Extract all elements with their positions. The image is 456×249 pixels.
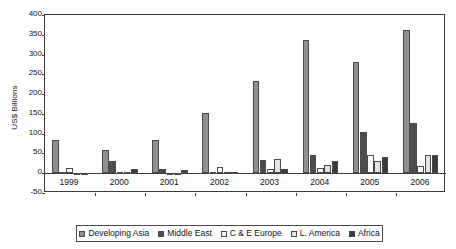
- bar-chart: US$ Billions 400350300250200150100500-50…: [0, 0, 456, 249]
- y-axis-tick-mark: [42, 74, 45, 75]
- y-axis-tick-mark: [42, 153, 45, 154]
- bar: [102, 150, 109, 173]
- bar: [159, 169, 166, 173]
- bar: [174, 173, 181, 175]
- bar: [210, 172, 217, 174]
- legend-label: C & E Europe: [230, 229, 282, 238]
- bar: [74, 173, 81, 175]
- bar: [367, 155, 374, 174]
- y-axis-tick-label: 150: [29, 109, 42, 117]
- legend-item[interactable]: Developing Asia: [79, 229, 149, 238]
- bar: [310, 155, 317, 173]
- bar: [374, 161, 381, 173]
- bar: [432, 155, 439, 174]
- legend-item[interactable]: L. America: [291, 229, 340, 238]
- y-axis-tick-label: -50: [30, 188, 42, 196]
- x-axis-tick-label: 2003: [245, 178, 295, 187]
- y-axis-tick-mark: [42, 94, 45, 95]
- x-axis-tick-mark: [346, 193, 347, 196]
- bar: [281, 169, 288, 173]
- y-axis-tick-mark: [42, 193, 45, 194]
- bar: [303, 40, 310, 174]
- bar: [202, 113, 209, 174]
- bar: [52, 140, 59, 173]
- bar: [181, 170, 188, 173]
- y-axis-tick-label: 0: [38, 168, 42, 176]
- bar: [425, 155, 432, 173]
- x-axis-tick-mark: [296, 193, 297, 196]
- legend-label: L. America: [300, 229, 340, 238]
- y-axis-tick-label: 50: [33, 148, 42, 156]
- legend-swatch-icon: [79, 231, 85, 237]
- y-axis-tick-label: 200: [29, 89, 42, 97]
- y-axis-tick-label: 350: [29, 30, 42, 38]
- y-axis-tick-mark: [42, 35, 45, 36]
- x-axis-tick-mark: [145, 193, 146, 196]
- y-axis-tick-mark: [42, 173, 45, 174]
- x-axis-tick-label: 2005: [345, 178, 395, 187]
- bar: [360, 132, 367, 174]
- bar: [274, 159, 281, 173]
- bar: [382, 157, 389, 173]
- legend-item[interactable]: C & E Europe: [221, 229, 282, 238]
- bar: [167, 173, 174, 175]
- bar: [260, 160, 267, 173]
- plot-area: [44, 14, 445, 192]
- y-axis-tick-label: 250: [29, 69, 42, 77]
- bar: [131, 169, 138, 173]
- bar: [124, 172, 131, 174]
- bar: [324, 165, 331, 173]
- y-axis-tick-label: 400: [29, 10, 42, 18]
- legend-item[interactable]: Africa: [349, 229, 380, 238]
- legend-swatch-icon: [158, 231, 164, 237]
- bar: [59, 172, 66, 174]
- y-axis-tick-mark: [42, 55, 45, 56]
- bar: [353, 62, 360, 174]
- bar: [224, 172, 231, 174]
- x-axis-tick-label: 2002: [194, 178, 244, 187]
- x-axis-tick-mark: [95, 193, 96, 196]
- x-axis-tick-label: 2000: [94, 178, 144, 187]
- bar: [417, 166, 424, 174]
- bar: [332, 161, 339, 173]
- x-axis-tick-mark: [246, 193, 247, 196]
- x-axis-tick-mark: [396, 193, 397, 196]
- x-axis-tick-label: 2004: [295, 178, 345, 187]
- legend-label: Middle East: [167, 229, 211, 238]
- bar: [410, 123, 417, 174]
- bar: [117, 172, 124, 174]
- legend-swatch-icon: [291, 231, 297, 237]
- zero-baseline: [45, 173, 446, 174]
- y-axis-tick-label: 100: [29, 129, 42, 137]
- legend-item[interactable]: Middle East: [158, 229, 211, 238]
- y-axis-tick-mark: [42, 134, 45, 135]
- y-axis-tick-labels: 400350300250200150100500-50: [16, 0, 42, 249]
- y-axis-tick-mark: [42, 15, 45, 16]
- legend-label: Africa: [358, 229, 380, 238]
- y-axis-tick-mark: [42, 114, 45, 115]
- x-axis-tick-label: 2001: [144, 178, 194, 187]
- bar: [317, 168, 324, 173]
- x-axis-tick-label: 2006: [395, 178, 445, 187]
- bar: [109, 161, 116, 173]
- bar: [403, 30, 410, 174]
- x-axis-tick-mark: [195, 193, 196, 196]
- bar: [231, 172, 238, 174]
- bar: [217, 167, 224, 174]
- legend-swatch-icon: [349, 231, 355, 237]
- bar: [66, 168, 73, 173]
- legend-swatch-icon: [221, 231, 227, 237]
- bar: [267, 169, 274, 173]
- chart-legend: Developing AsiaMiddle EastC & E EuropeL.…: [76, 225, 383, 242]
- x-axis-tick-label: 1999: [44, 178, 94, 187]
- bar: [152, 140, 159, 173]
- bar: [253, 81, 260, 173]
- bar: [81, 173, 88, 175]
- legend-label: Developing Asia: [88, 229, 149, 238]
- y-axis-tick-label: 300: [29, 50, 42, 58]
